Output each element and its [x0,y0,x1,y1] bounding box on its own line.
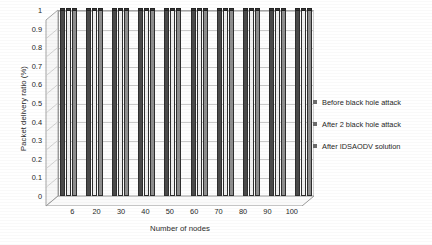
bar[interactable] [191,10,196,196]
plot-area [46,10,314,206]
bar[interactable] [150,10,155,196]
y-tick-label: 0.5 [22,99,42,108]
bar-face [112,10,117,196]
bar-face [229,10,234,196]
bar-group [191,10,208,196]
bar-face [281,10,286,196]
bar[interactable] [124,10,129,196]
bar-top-face [269,8,274,11]
legend-item-label: Before black hole attack [322,98,401,107]
bar[interactable] [112,10,117,196]
bar-top-face [176,8,181,11]
bar[interactable] [66,10,71,196]
bar[interactable] [203,10,208,196]
bar-top-face [124,8,129,11]
bar[interactable] [86,10,91,196]
y-tick-label: 0.4 [22,117,42,126]
bar-face [249,10,254,196]
y-tick-label: 0.8 [22,43,42,52]
y-axis-tick-labels: 00.10.20.30.40.50.60.70.80.91 [22,10,42,204]
bar[interactable] [281,10,286,196]
bar-top-face [249,8,254,11]
x-tick-label: 90 [263,207,271,216]
bar[interactable] [275,10,280,196]
y-tick-label: 0 [22,192,42,201]
y-tick-label: 0.9 [22,24,42,33]
bar[interactable] [118,10,123,196]
bar[interactable] [176,10,181,196]
bar[interactable] [295,10,300,196]
x-tick-label: 30 [117,207,125,216]
bar-top-face [197,8,202,11]
bar-group [269,10,286,196]
bar[interactable] [243,10,248,196]
bar[interactable] [72,10,77,196]
bar-top-face [72,8,77,11]
legend-item[interactable]: After IDSAODV solution [313,135,431,157]
bar[interactable] [197,10,202,196]
bar-face [144,10,149,196]
bar[interactable] [269,10,274,196]
bar[interactable] [170,10,175,196]
bar[interactable] [249,10,254,196]
bar-top-face [170,8,175,11]
bar[interactable] [307,10,312,196]
bar[interactable] [229,10,234,196]
bar-top-face [203,8,208,11]
bar-face [98,10,103,196]
legend-item[interactable]: Before black hole attack [313,91,431,113]
bar[interactable] [98,10,103,196]
bar-face [295,10,300,196]
bar-group [217,10,234,196]
y-tick-label: 0.3 [22,136,42,145]
bar-top-face [118,8,123,11]
bar-top-face [307,8,312,11]
bar-group [138,10,155,196]
bar-face [275,10,280,196]
y-tick-label: 0.6 [22,80,42,89]
bar[interactable] [60,10,65,196]
bar-face [124,10,129,196]
x-tick-label: 100 [286,207,298,216]
bar-top-face [66,8,71,11]
legend-item[interactable]: After 2 black hole attack [313,113,431,135]
x-tick-label: 6 [70,207,74,216]
bar-top-face [138,8,143,11]
bar[interactable] [164,10,169,196]
bar[interactable] [223,10,228,196]
x-tick-label: 60 [190,207,198,216]
bar-face [269,10,274,196]
y-tick-label: 1 [22,6,42,15]
bar-face [150,10,155,196]
bar[interactable] [144,10,149,196]
bar[interactable] [301,10,306,196]
bar-face [301,10,306,196]
bar-top-face [275,8,280,11]
chart-legend: Before black hole attackAfter 2 black ho… [313,91,431,157]
bar-top-face [295,8,300,11]
y-tick-label: 0.1 [22,173,42,182]
bar[interactable] [217,10,222,196]
bar[interactable] [138,10,143,196]
bar-top-face [144,8,149,11]
bar-group [86,10,103,196]
bar[interactable] [255,10,260,196]
bar-top-face [112,8,117,11]
bar-top-face [86,8,91,11]
x-tick-label: 40 [141,207,149,216]
bar-top-face [243,8,248,11]
x-tick-label: 20 [92,207,100,216]
bar[interactable] [92,10,97,196]
bar-face [307,10,312,196]
x-tick-label: 80 [239,207,247,216]
bar-top-face [164,8,169,11]
bar-top-face [60,8,65,11]
bar-face [217,10,222,196]
bar-face [170,10,175,196]
legend-item-label: After 2 black hole attack [322,120,401,129]
bar-face [92,10,97,196]
bar-top-face [217,8,222,11]
y-tick-label: 0.2 [22,154,42,163]
y-tick-label: 0.7 [22,61,42,70]
bar-face [138,10,143,196]
